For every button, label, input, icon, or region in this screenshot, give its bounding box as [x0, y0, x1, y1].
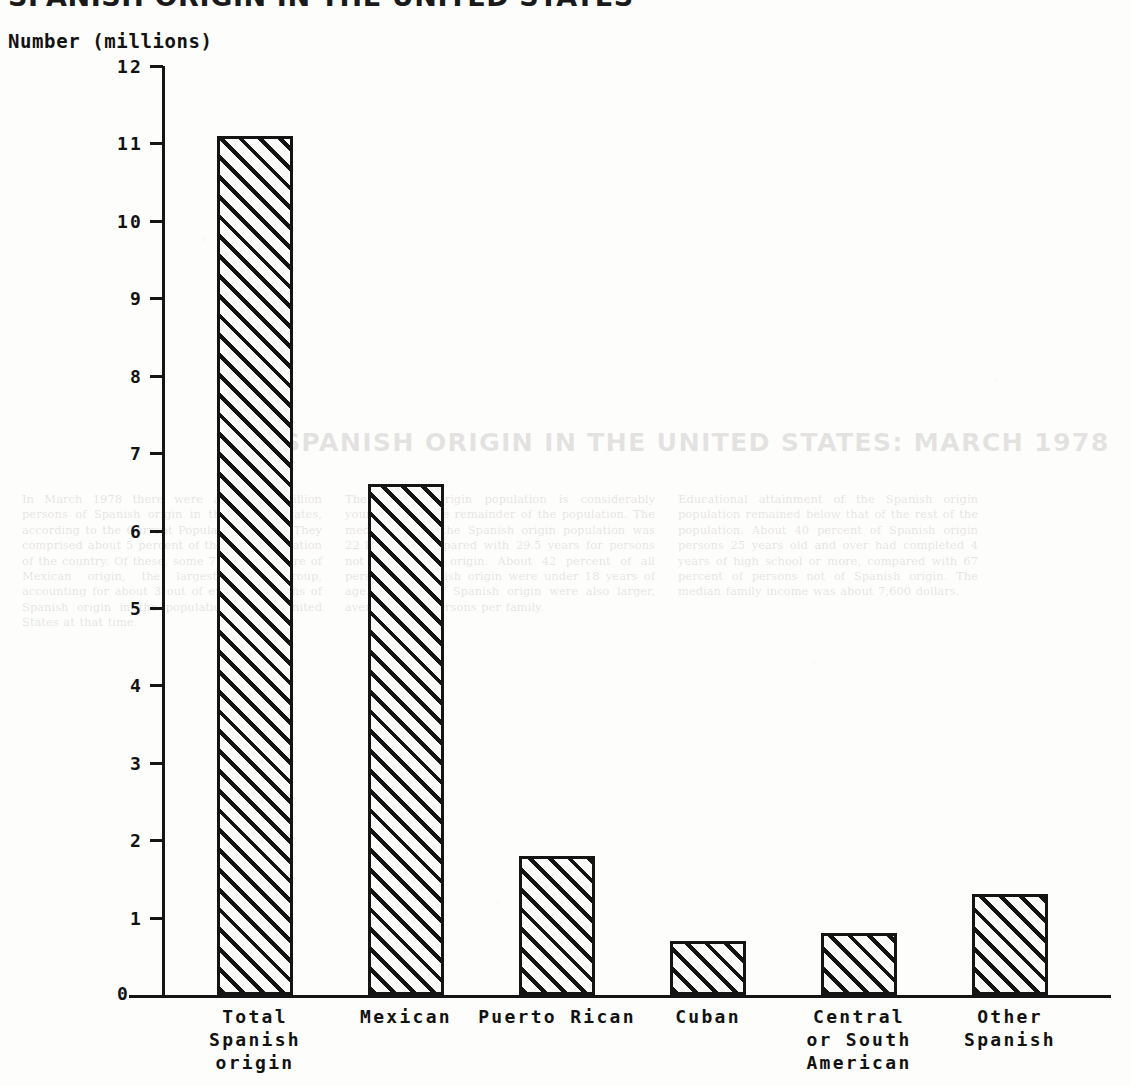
x-tick-label: Other Spanish	[905, 1005, 1115, 1051]
bar	[821, 933, 897, 995]
y-tick-label: 1	[43, 907, 143, 928]
chart-page: SPANISH ORIGIN IN THE UNITED STATES SPAN…	[0, 0, 1131, 1086]
cut-off-page-title-text: SPANISH ORIGIN IN THE UNITED STATES	[0, 0, 1131, 7]
y-tick-label: 11	[43, 133, 143, 154]
y-tick-mark	[150, 839, 163, 842]
y-tick-label: 7	[43, 443, 143, 464]
y-tick-label: 6	[43, 520, 143, 541]
bleed-through-column-3: Educational attainment of the Spanish or…	[678, 492, 978, 600]
x-axis-line	[129, 995, 1111, 998]
y-tick-mark	[150, 65, 163, 68]
y-tick-mark	[150, 452, 163, 455]
bar	[519, 856, 595, 995]
y-tick-label: 10	[43, 210, 143, 231]
y-tick-mark	[150, 607, 163, 610]
bleed-through-title: SPANISH ORIGIN IN THE UNITED STATES: MAR…	[282, 428, 1110, 457]
y-tick-label: 4	[43, 675, 143, 696]
bar	[217, 136, 293, 995]
bar	[368, 484, 444, 995]
y-tick-mark	[150, 684, 163, 687]
y-tick-mark	[150, 375, 163, 378]
y-tick-mark	[150, 220, 163, 223]
y-tick-label-0: 0	[117, 983, 130, 1004]
y-tick-label: 9	[43, 288, 143, 309]
y-tick-label: 2	[43, 830, 143, 851]
y-tick-label: 12	[43, 56, 143, 77]
y-tick-label: 8	[43, 365, 143, 386]
y-tick-label: 3	[43, 752, 143, 773]
y-tick-mark	[150, 142, 163, 145]
cut-off-page-title: SPANISH ORIGIN IN THE UNITED STATES	[0, 0, 1131, 7]
y-tick-mark	[150, 917, 163, 920]
y-tick-mark	[150, 297, 163, 300]
y-tick-mark	[150, 530, 163, 533]
y-axis-title: Number (millions)	[8, 30, 213, 52]
bar	[670, 941, 746, 995]
bar	[972, 894, 1048, 995]
y-tick-label: 5	[43, 597, 143, 618]
y-tick-mark	[150, 762, 163, 765]
